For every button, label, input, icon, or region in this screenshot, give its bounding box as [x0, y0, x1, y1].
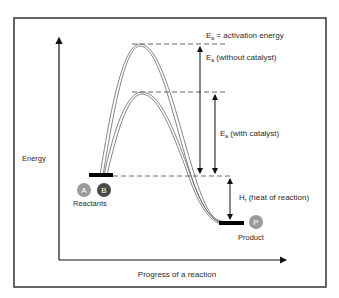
energy-diagram: Ea = activation energy Ea (without catal…	[0, 0, 339, 298]
legend-activation-energy: Ea = activation energy	[206, 31, 284, 41]
molecule-p: P	[249, 215, 263, 229]
molecule-a: A	[77, 183, 91, 197]
svg-text:P: P	[253, 218, 258, 227]
label-ea-with-catalyst: Ea (with catalyst)	[220, 129, 280, 139]
molecule-b: B	[97, 183, 111, 197]
label-heat-of-reaction: Hr (heat of reaction)	[239, 193, 309, 203]
reactant-level-bar	[89, 173, 113, 177]
product-level-bar	[219, 221, 244, 225]
svg-text:B: B	[101, 186, 106, 195]
diagram-frame	[14, 18, 326, 287]
label-ea-without-catalyst: Ea (without catalyst)	[206, 53, 277, 63]
reactants-label: Reactants	[73, 199, 107, 208]
product-label: Product	[238, 233, 265, 242]
y-axis-label: Energy	[22, 154, 46, 163]
x-axis-label: Progress of a reaction	[138, 270, 216, 279]
svg-text:A: A	[81, 186, 87, 195]
